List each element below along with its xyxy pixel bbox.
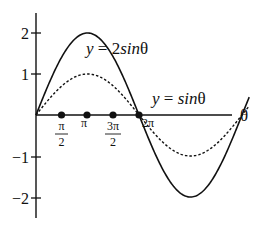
x-tick-pi-half: π 2 <box>55 119 68 149</box>
annotation-2sin: y = 2sinθ <box>84 39 148 58</box>
y-tick-label-neg1: −1 <box>12 149 29 166</box>
x-tick-2pi: 2π <box>142 116 154 130</box>
chart: 2 1 −1 −2 π 2 π 3π 2 2π θ y = 2sinθ y = … <box>0 0 258 228</box>
svg-text:2: 2 <box>110 135 116 149</box>
svg-text:3π: 3π <box>107 119 119 133</box>
svg-text:2: 2 <box>59 135 65 149</box>
x-tick-pi: π <box>81 116 87 130</box>
y-tick-label-2: 2 <box>21 25 29 42</box>
svg-text:π: π <box>58 119 64 133</box>
x-tick-three-pi-half: 3π 2 <box>105 119 121 149</box>
x-axis-label: θ <box>240 106 248 125</box>
y-tick-label-1: 1 <box>21 66 29 83</box>
y-tick-label-neg2: −2 <box>12 190 29 207</box>
annotation-sin: y = sinθ <box>150 89 206 108</box>
